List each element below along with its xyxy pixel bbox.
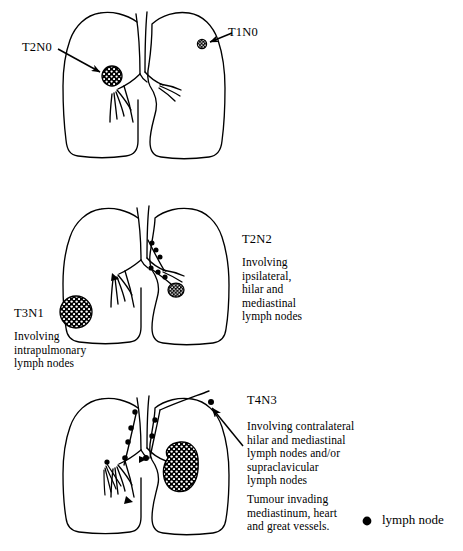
vessel-branch-l2: [117, 467, 125, 491]
stage-label-t2n2: T2N2: [242, 232, 272, 247]
vessel-branch-l3: [115, 278, 118, 304]
lymph-node-supraclavicular: [208, 399, 214, 405]
hilum-arrow-left-lower: [124, 496, 133, 504]
panel-t4n3: T4N3 Involving contralateral hilar and m…: [0, 380, 463, 551]
vessel-fan-4: [104, 470, 105, 495]
lung-outline-right: [148, 12, 225, 158]
trachea-line-left: [136, 14, 140, 74]
lymph-node: [152, 417, 157, 422]
trachea-line-left: [137, 398, 141, 450]
lymph-node: [132, 409, 137, 414]
stage-label-t2n0: T2N0: [22, 40, 52, 55]
stage-description-t3n1: Involving intrapulmonary lymph nodes: [14, 330, 86, 371]
tumour-t2n0: [102, 66, 122, 86]
stage-description-t4n3-secondary: Tumour invading mediastinum, heart and g…: [247, 493, 337, 534]
panel-t1n0-t2n0: T2N0 T1N0: [0, 0, 463, 180]
vessel-branch-l2: [116, 92, 124, 116]
carina-notch: [141, 260, 148, 268]
tumour-t1n0: [197, 39, 206, 48]
vessel-stem-left: [124, 86, 133, 122]
lymph-node: [122, 455, 128, 461]
vessel-stem-left: [125, 271, 134, 307]
stage-label-t3n1: T3N1: [14, 306, 44, 321]
trachea-line-right: [147, 396, 149, 448]
bronchus-left-main: [119, 260, 141, 274]
lymph-node: [155, 269, 160, 274]
lymph-node: [148, 265, 153, 270]
carina-notch: [140, 74, 147, 82]
vessel-branch-l4: [110, 94, 112, 122]
tumour-t3n1: [60, 296, 92, 328]
lymph-node: [158, 255, 163, 260]
legend-label: lymph node: [382, 512, 444, 527]
vessel-branch-l3: [114, 93, 117, 119]
lymph-node: [149, 433, 154, 438]
lung-staging-figure: T2N0 T1N0: [0, 0, 463, 551]
lymph-node: [128, 425, 133, 430]
stage-label-t1n0: T1N0: [228, 25, 258, 40]
vessel-branch-l4: [111, 279, 113, 307]
stage-label-t4n3: T4N3: [247, 393, 277, 408]
lymph-node: [162, 274, 167, 279]
tumour-t2n2-hilar: [168, 283, 184, 297]
vessel-branch-r3: [159, 88, 175, 101]
tumour-t4n3: [163, 442, 198, 492]
stage-description-t4n3: Involving contralateral hilar and medias…: [247, 420, 354, 488]
lymph-node: [154, 248, 159, 253]
lymph-node: [125, 439, 130, 444]
trachea-line-left: [137, 208, 141, 260]
stage-description-t2n2: Involving ipsilateral, hilar and mediast…: [242, 256, 302, 324]
legend-marker-icon: [363, 517, 372, 526]
trachea-line-right: [145, 12, 147, 72]
panel-t2n2-t3n1: T2N2 Involving ipsilateral, hilar and me…: [0, 180, 463, 380]
vessel-stem-left: [125, 461, 134, 497]
trachea-line-right: [147, 206, 149, 258]
arrow-t4n3-supraclavicular: [212, 408, 243, 446]
vessel-branch-l2: [117, 277, 125, 301]
bronchus-left-main: [119, 450, 141, 464]
lung-outline-left: [63, 398, 141, 533]
lymph-node: [150, 241, 155, 246]
